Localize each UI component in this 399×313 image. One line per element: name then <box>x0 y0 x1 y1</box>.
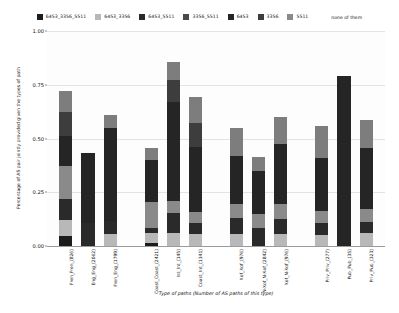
bar-segment-6453 <box>189 212 202 224</box>
legend-swatch-icon <box>258 14 264 20</box>
bar-segment-6453_3356 <box>360 233 373 246</box>
legend-swatch-icon <box>37 14 43 20</box>
bar-segment-3356 <box>315 158 328 211</box>
bar-segment-3356 <box>274 144 287 204</box>
legend-label: 6453 <box>237 14 249 20</box>
x-tick-label: Priv_Priv_(277) <box>325 249 330 282</box>
bar-segment-6453_3356 <box>274 234 287 246</box>
bar-Priv_Pub_(323) <box>360 31 373 246</box>
bar-segment-3356 <box>230 156 243 204</box>
y-gridline <box>47 139 385 140</box>
y-tick-label: 0.50 <box>32 136 44 142</box>
bar-Eng_Eng_(2062) <box>81 31 94 246</box>
legend-swatch-icon <box>287 14 293 20</box>
bar-segment-6453_5511 <box>252 228 265 246</box>
bar-Int_Int_(145) <box>167 31 180 246</box>
bar-segment-3356 <box>167 102 180 201</box>
x-tick-label: Int_Int_(145) <box>176 249 181 278</box>
bar-Fren_Eng_(1799) <box>104 31 117 246</box>
bar-segment-6453_5511 <box>360 222 373 233</box>
bar-segment-none of them <box>145 148 158 160</box>
bar-segment-6453_5511 <box>104 221 117 234</box>
legend-swatch-icon <box>95 14 101 20</box>
bar-Xof_N-Xof_(976) <box>274 31 287 246</box>
y-gridline <box>47 85 385 86</box>
bar-Pub_Pub_(35) <box>337 31 350 246</box>
bar-segment-6453_5511 <box>189 223 202 234</box>
bar-segment-3356 <box>337 76 350 246</box>
chart-figure: 6453_3356_55116453_33566453_55113356_551… <box>0 0 399 313</box>
legend-swatch-icon <box>228 14 234 20</box>
y-tick-mark <box>45 138 47 139</box>
bar-segment-6453_5511 <box>230 218 243 234</box>
x-tick-label: Xof_N-Xof_(976) <box>284 249 289 285</box>
bar-segment-6453_3356 <box>145 233 158 244</box>
chart-legend: 6453_3356_55116453_33566453_55113356_551… <box>0 11 399 23</box>
bar-segment-5511 <box>167 80 180 102</box>
bar-segment-5511 <box>189 123 202 147</box>
bar-segment-6453_3356 <box>167 233 180 246</box>
x-tick-label: Priv_Pub_(323) <box>369 249 374 282</box>
legend-item-6453_5511: 6453_5511 <box>139 14 174 20</box>
bar-segment-6453_5511 <box>145 228 158 233</box>
bar-Priv_Priv_(277) <box>315 31 328 246</box>
x-tick-label: Fren_Eng_(1799) <box>113 249 118 287</box>
bar-segment-6453_5511 <box>59 199 72 221</box>
legend-label: 6453_5511 <box>148 14 174 20</box>
bar-segment-3356 <box>59 136 72 166</box>
x-axis-title: Type of paths (Number of AS paths of thi… <box>47 291 385 296</box>
legend-label-none-of-them: none of them <box>331 15 362 20</box>
bar-segment-3356 <box>81 153 94 224</box>
bar-segment-none of them <box>315 126 328 158</box>
bar-segment-3356 <box>360 148 373 209</box>
bar-Coast_Int_(1341) <box>189 31 202 246</box>
bar-segment-6453_3356 <box>104 234 117 246</box>
bar-segment-6453 <box>315 211 328 224</box>
bar-segment-6453_5511 <box>315 223 328 235</box>
bar-segment-6453 <box>230 204 243 218</box>
x-tick-label: Coast_Int_(1341) <box>198 249 203 287</box>
bar-segment-6453_3356 <box>230 234 243 246</box>
legend-swatch-icon <box>139 14 145 20</box>
bar-segment-6453 <box>167 201 180 213</box>
bar-segment-none of them <box>167 62 180 80</box>
bar-N-Xof_N-Xof_(2842) <box>252 31 265 246</box>
x-tick-label: Xof_Xof_(976) <box>239 249 244 280</box>
legend-item-3356: 3356 <box>258 14 279 20</box>
bar-Fren_Fren_(826) <box>59 31 72 246</box>
bar-segment-6453_5511 <box>274 219 287 234</box>
y-tick-label: 1.00 <box>32 28 44 34</box>
x-tick-label: N-Xof_N-Xof_(2842) <box>262 249 267 293</box>
legend-item-6453_3356_5511: 6453_3356_5511 <box>37 14 86 20</box>
bar-segment-none of them <box>59 91 72 111</box>
bar-segment-none of them <box>274 117 287 144</box>
legend-label: 3356 <box>267 14 279 20</box>
bar-segment-5511 <box>59 112 72 137</box>
bar-segment-none of them <box>104 115 117 128</box>
legend-label: 6453_3356 <box>104 14 130 20</box>
y-tick-label: 0.00 <box>32 243 44 249</box>
y-gridline <box>47 192 385 193</box>
bar-segment-3356 <box>189 147 202 212</box>
bar-segment-6453_3356 <box>315 235 328 246</box>
bar-segment-none of them <box>360 120 373 148</box>
y-axis-title: Percentage of AS pair jointly provided g… <box>16 67 21 209</box>
bar-segment-6453_3356 <box>189 234 202 246</box>
bar-Xof_Xof_(976) <box>230 31 243 246</box>
legend-label: 5511 <box>296 14 308 20</box>
bar-segment-none of them <box>252 157 265 171</box>
bar-segment-6453 <box>59 166 72 198</box>
x-tick-label: Coast_Coast_(2421) <box>154 249 159 294</box>
y-tick-mark <box>45 31 47 32</box>
bar-segment-6453 <box>145 202 158 228</box>
legend-item-6453: 6453 <box>228 14 249 20</box>
legend-label: 3356_5511 <box>192 14 218 20</box>
bar-segment-6453_3356 <box>59 220 72 236</box>
bar-segment-6453 <box>274 204 287 219</box>
legend-swatch-icon <box>183 14 189 20</box>
y-gridline <box>47 31 385 32</box>
x-axis-line <box>47 246 385 247</box>
bar-segment-3356 <box>145 160 158 202</box>
bar-segment-6453 <box>360 209 373 222</box>
bar-segment-6453_3356_5511 <box>59 236 72 246</box>
